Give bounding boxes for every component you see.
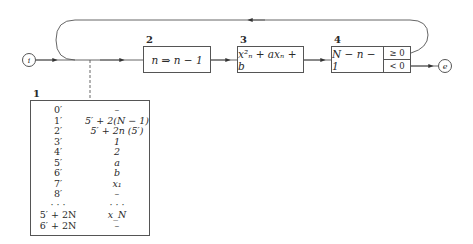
addr: 5′ + 2N	[31, 210, 85, 221]
value: –	[85, 221, 150, 232]
memory-table-number: 1	[33, 88, 40, 99]
value: –	[85, 105, 150, 116]
condition-branches: ≥ 0 < 0	[384, 47, 410, 72]
block-4-number: 4	[334, 34, 341, 45]
addr: 8′	[31, 189, 85, 200]
end-node: e	[438, 59, 452, 73]
start-node: i	[22, 53, 36, 67]
table-row: 2′5′ + 2n (5′)	[31, 126, 150, 137]
value: 5′ + 2n (5′)	[85, 126, 150, 137]
table-row: 6′b	[31, 168, 150, 179]
addr: 4′	[31, 147, 85, 158]
addr: 0′	[31, 105, 85, 116]
table-row: 4′2	[31, 147, 150, 158]
table-row: 6′ + 2N–	[31, 221, 150, 232]
value: x_N	[85, 210, 150, 221]
table-row: 5′ + 2Nx_N	[31, 210, 150, 221]
branch-lt-zero: < 0	[384, 59, 410, 72]
addr: 6′	[31, 168, 85, 179]
memory-table: 0′– 1′5′ + 2(N − 1) 2′5′ + 2n (5′) 3′1 4…	[30, 100, 150, 236]
block-decrement: n ⇒ n − 1	[143, 46, 211, 73]
block-condition: N − n − 1 ≥ 0 < 0	[331, 46, 411, 73]
addr: 2′	[31, 126, 85, 137]
block-3-number: 3	[240, 34, 247, 45]
block-polynomial: x²ₙ + axₙ + b	[237, 46, 304, 73]
table-row: 0′–	[31, 105, 150, 116]
table-row: 8′–	[31, 189, 150, 200]
block-2-number: 2	[146, 34, 153, 45]
addr: 6′ + 2N	[31, 221, 85, 232]
value: –	[85, 189, 150, 200]
value: 2	[85, 147, 150, 158]
block-decrement-label: n ⇒ n − 1	[151, 54, 202, 66]
block-condition-label: N − n − 1	[332, 47, 384, 72]
table-row: 5′a	[31, 158, 150, 169]
block-polynomial-label: x²ₙ + axₙ + b	[238, 48, 303, 72]
table-row: 7′x₁	[31, 179, 150, 190]
table-row: 3′1	[31, 137, 150, 148]
value: b	[85, 168, 150, 179]
branch-ge-zero: ≥ 0	[384, 47, 410, 59]
